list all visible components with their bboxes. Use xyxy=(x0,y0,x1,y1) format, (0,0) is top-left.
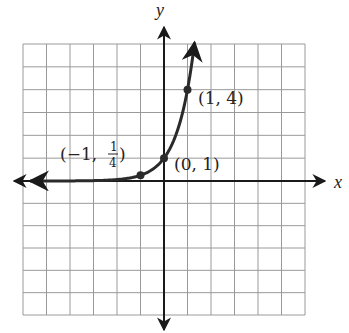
point-label-0-1: (0, 1) xyxy=(174,154,220,174)
x-axis-label: x xyxy=(333,172,342,192)
fraction-numerator: 1 xyxy=(110,140,118,154)
data-point xyxy=(184,86,192,94)
data-point xyxy=(160,154,168,162)
data-point xyxy=(137,171,145,179)
y-axis-label: y xyxy=(154,0,164,20)
point-label-1-4: (1, 4) xyxy=(198,88,244,108)
exponential-graph: y x (1, 4) (0, 1) (−1, 1 4 ) xyxy=(0,0,349,333)
point-label-close: ) xyxy=(119,144,126,164)
point-label-open: (−1, xyxy=(60,144,97,164)
fraction-denominator: 4 xyxy=(109,156,117,170)
